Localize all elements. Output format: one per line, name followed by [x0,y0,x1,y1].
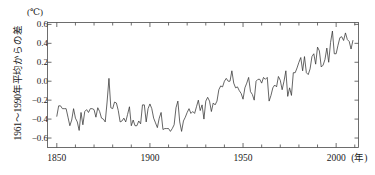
temperature-anomaly-chart: (℃) 1961～1990年平均からの差 0.60.40.20.0−0.2−0.… [0,0,375,175]
x-axis-ticks [57,23,355,148]
plot-frame [48,23,359,148]
plot-area [0,0,375,175]
y-axis-ticks [48,24,359,138]
temperature-series-line [57,31,353,131]
